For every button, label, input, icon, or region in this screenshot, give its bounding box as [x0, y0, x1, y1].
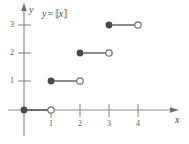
- plot-canvas: [0, 0, 189, 144]
- open-endpoint-1: [77, 78, 83, 84]
- filled-endpoint-2: [77, 50, 84, 57]
- filled-endpoint-3: [106, 22, 113, 29]
- filled-endpoint-0: [21, 107, 28, 114]
- function-label-close-bracket: ⟧: [63, 8, 67, 19]
- x-tick-label-4: 4: [131, 119, 145, 128]
- function-label: y=⟦x⟧: [42, 8, 67, 19]
- y-tick-label-3: 3: [5, 20, 19, 29]
- open-endpoint-3: [135, 22, 141, 28]
- y-tick-label-2: 2: [5, 48, 19, 57]
- x-tick-label-1: 1: [44, 119, 58, 128]
- x-axis-arrow-icon: [170, 107, 179, 113]
- open-endpoint-2: [106, 50, 112, 56]
- y-axis-arrow-icon: [21, 3, 27, 11]
- y-axis-label: y: [29, 4, 33, 15]
- filled-endpoint-1: [48, 78, 55, 85]
- x-tick-label-2: 2: [73, 119, 87, 128]
- x-tick-label-3: 3: [102, 119, 116, 128]
- step-function-figure: y=⟦x⟧ y x 1 2 3 1 2 3 4: [0, 0, 189, 144]
- function-label-operator: =: [47, 8, 55, 19]
- x-axis-label: x: [175, 114, 179, 125]
- y-tick-label-1: 1: [5, 76, 19, 85]
- open-endpoint-0: [48, 107, 54, 113]
